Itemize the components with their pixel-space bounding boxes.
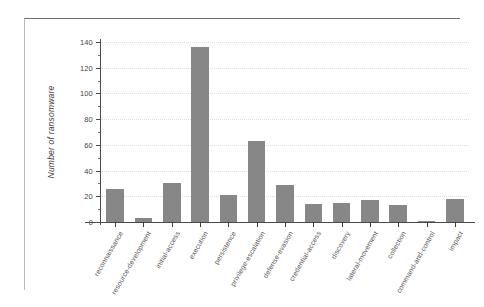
x-tick-mark bbox=[172, 222, 173, 227]
x-tick-label: collection bbox=[386, 230, 407, 260]
x-tick-mark bbox=[370, 222, 371, 227]
x-tick-label: lateral-movement bbox=[345, 230, 379, 282]
bar bbox=[163, 183, 181, 222]
y-tick-label: 80 bbox=[84, 115, 93, 124]
x-tick-mark bbox=[398, 222, 399, 227]
bar bbox=[305, 204, 323, 222]
x-tick-label: execution bbox=[188, 230, 209, 260]
y-tick-label: 100 bbox=[80, 89, 93, 98]
x-tick-mark bbox=[455, 222, 456, 227]
x-tick-label: discovery bbox=[329, 230, 350, 260]
bar bbox=[361, 200, 379, 222]
y-tick-label: 40 bbox=[84, 166, 93, 175]
bar bbox=[220, 195, 238, 222]
bar bbox=[248, 141, 266, 222]
x-tick-label: privilege-escalation bbox=[229, 230, 266, 287]
y-tick-label: 140 bbox=[80, 38, 93, 47]
x-tick-mark bbox=[228, 222, 229, 227]
plot-area: 020406080100120140 bbox=[101, 42, 469, 222]
x-tick-mark bbox=[427, 222, 428, 227]
y-tick-label: 20 bbox=[84, 192, 93, 201]
bar bbox=[276, 185, 294, 222]
y-tick-mark bbox=[96, 222, 101, 223]
x-tick-mark bbox=[200, 222, 201, 227]
y-tick-label: 120 bbox=[80, 63, 93, 72]
figure-frame: Number of ransomware 020406080100120140 … bbox=[24, 18, 460, 290]
x-tick-mark bbox=[257, 222, 258, 227]
x-tick-mark bbox=[115, 222, 116, 227]
y-tick-label: 0 bbox=[89, 218, 93, 227]
x-tick-label: initial-access bbox=[154, 230, 181, 269]
x-tick-mark bbox=[342, 222, 343, 227]
bar-series bbox=[101, 42, 469, 222]
x-tick-label: persistence bbox=[213, 230, 238, 265]
x-tick-label: reconnaissance bbox=[93, 230, 124, 277]
bar bbox=[446, 199, 464, 222]
x-tick-mark bbox=[143, 222, 144, 227]
bar bbox=[333, 203, 351, 222]
bar bbox=[389, 205, 407, 222]
x-tick-mark bbox=[313, 222, 314, 227]
x-tick-mark bbox=[285, 222, 286, 227]
bar bbox=[191, 47, 209, 222]
x-tick-label: credential-access bbox=[288, 230, 322, 282]
x-tick-label: defense-evasion bbox=[262, 230, 294, 279]
x-tick-label: impact bbox=[447, 230, 464, 252]
y-axis-title: Number of ransomware bbox=[46, 86, 56, 179]
bar bbox=[106, 189, 124, 222]
y-tick-label: 60 bbox=[84, 140, 93, 149]
